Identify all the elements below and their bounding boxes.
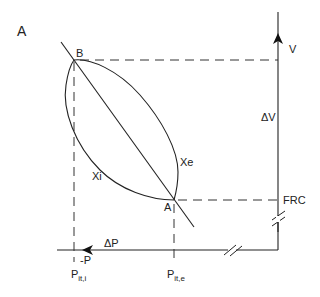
expiratory-limb [74, 60, 178, 200]
xe-curve-label: Xe [180, 157, 193, 168]
pressure-volume-loop-diagram: A B A Xi Xe V ΔV FRC ΔP -P Pit,i Pit,e [0, 0, 320, 297]
p-it-i-label: Pit,i [71, 269, 86, 283]
panel-label: A [17, 24, 26, 38]
frc-label: FRC [283, 195, 306, 206]
delta-p-label: ΔP [104, 238, 119, 249]
xi-curve-label: Xi [92, 171, 102, 182]
inspiratory-limb [65, 60, 174, 200]
point-b-label: B [76, 48, 83, 59]
volume-axis-label: V [289, 44, 296, 55]
diagram-canvas [0, 0, 320, 297]
point-a-label: A [164, 202, 171, 213]
delta-v-label: ΔV [261, 112, 276, 123]
minus-p-label: -P [80, 255, 91, 266]
p-it-e-label: Pit,e [167, 269, 185, 283]
